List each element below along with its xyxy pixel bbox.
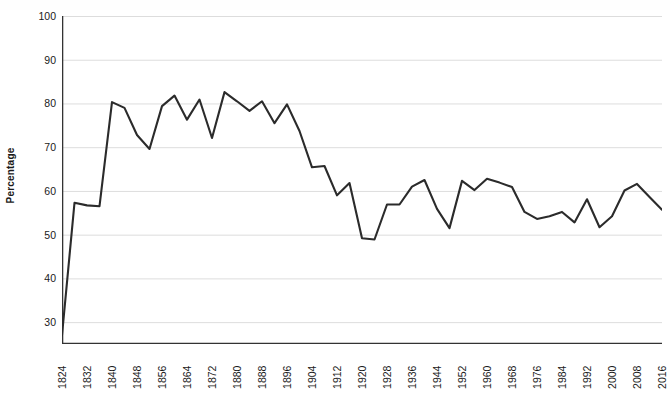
x-axis-tick-label-text: 1912 [332, 366, 343, 389]
plot-svg [62, 16, 662, 344]
x-axis-tick-label: 1920 [356, 352, 368, 396]
y-axis-tick-label: 40 [22, 273, 56, 284]
x-axis-tick-label-text: 1848 [132, 366, 143, 389]
y-axis-tick-label: 60 [22, 186, 56, 197]
x-axis-tick-label: 1896 [281, 352, 293, 396]
x-axis-tick-label: 1992 [581, 352, 593, 396]
x-axis-tick-label-text: 1840 [107, 366, 118, 389]
x-axis-tick-label: 1912 [331, 352, 343, 396]
x-axis-tick-label-text: 1936 [407, 366, 418, 389]
x-axis-tick-labels: 1824183218401848185618641872188018881896… [62, 352, 662, 398]
y-axis-title-text: Percentage [6, 147, 17, 203]
x-axis-tick-label: 1840 [106, 352, 118, 396]
x-axis-tick-label: 1904 [306, 352, 318, 396]
turnout-data-line [62, 92, 662, 335]
y-axis-tick-label: 50 [22, 229, 56, 240]
x-axis-tick-label: 1864 [181, 352, 193, 396]
x-axis-tick-label: 1848 [131, 352, 143, 396]
x-axis-tick-label: 1880 [231, 352, 243, 396]
x-axis-tick-label-text: 1880 [232, 366, 243, 389]
y-axis-tick-labels: 30405060708090100 [18, 0, 56, 398]
x-axis-tick-label-text: 1984 [557, 366, 568, 389]
x-axis-tick-label-text: 1872 [207, 366, 218, 389]
x-axis-tick-label-text: 1888 [257, 366, 268, 389]
y-axis-tick-label: 30 [22, 317, 56, 328]
y-axis-tick-label: 80 [22, 98, 56, 109]
y-axis-tick-label: 70 [22, 142, 56, 153]
x-axis-tick-label: 1984 [556, 352, 568, 396]
x-axis-tick-label-text: 1952 [457, 366, 468, 389]
x-axis-tick-label: 1856 [156, 352, 168, 396]
x-axis-tick-label-text: 1944 [432, 366, 443, 389]
x-axis-tick-label: 1832 [81, 352, 93, 396]
plot-area [62, 16, 662, 344]
x-axis-tick-label: 1872 [206, 352, 218, 396]
x-axis-tick-label-text: 1928 [382, 366, 393, 389]
voter-turnout-line-chart: Percentage 30405060708090100 18241832184… [0, 0, 670, 398]
x-axis-tick-label-text: 1992 [582, 366, 593, 389]
x-axis-tick-label: 1928 [381, 352, 393, 396]
x-axis-tick-label: 2000 [606, 352, 618, 396]
x-axis-tick-label: 1824 [56, 352, 68, 396]
x-axis-tick-label: 1944 [431, 352, 443, 396]
x-axis-tick-label: 1888 [256, 352, 268, 396]
top-edge-artifact [0, 0, 670, 10]
x-axis-tick-label-text: 1896 [282, 366, 293, 389]
x-axis-tick-label-text: 1968 [507, 366, 518, 389]
x-axis-tick-label-text: 1824 [57, 366, 68, 389]
x-axis-tick-label: 1960 [481, 352, 493, 396]
x-axis-tick-label-text: 1976 [532, 366, 543, 389]
x-axis-tick-label-text: 1920 [357, 366, 368, 389]
x-axis-tick-label: 2016 [656, 352, 668, 396]
x-axis-tick-label-text: 1904 [307, 366, 318, 389]
y-axis-tick-label: 100 [22, 11, 56, 22]
x-axis-tick-label: 1968 [506, 352, 518, 396]
x-axis-tick-label-text: 2008 [632, 366, 643, 389]
x-axis-tick-label-text: 1832 [82, 366, 93, 389]
y-axis-tick-label: 90 [22, 54, 56, 65]
gridlines [62, 17, 662, 323]
x-axis-tick-label: 1952 [456, 352, 468, 396]
x-axis-tick-label-text: 1856 [157, 366, 168, 389]
x-axis-tick-label-text: 2016 [657, 366, 668, 389]
x-axis-tick-label-text: 1864 [182, 366, 193, 389]
x-axis-tick-label: 1976 [531, 352, 543, 396]
x-axis-tick-label-text: 1960 [482, 366, 493, 389]
x-axis-tick-label: 1936 [406, 352, 418, 396]
x-axis-tick-label-text: 2000 [607, 366, 618, 389]
x-axis-tick-label: 2008 [631, 352, 643, 396]
